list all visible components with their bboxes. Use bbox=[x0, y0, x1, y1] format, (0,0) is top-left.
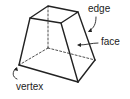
vertex-label: vertex bbox=[16, 82, 43, 92]
frustum-diagram: edge face vertex bbox=[0, 0, 130, 99]
face-label: face bbox=[101, 37, 120, 47]
edge-label: edge bbox=[88, 4, 110, 14]
